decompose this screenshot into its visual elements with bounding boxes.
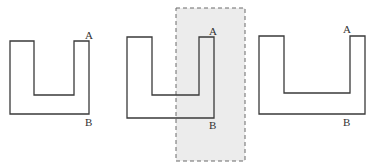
point-a-label: A [343,23,351,35]
u-shape-figure-1: A B [10,29,93,128]
u-shape-outline [10,41,89,114]
diagram-canvas: A B A B A B [0,0,376,166]
point-b-label: B [343,116,350,128]
point-b-label: B [209,119,216,131]
u-shape-outline [259,36,365,114]
point-a-label: A [209,25,217,37]
point-b-label: B [85,116,92,128]
u-shape-figure-3: A B [259,23,365,128]
point-a-label: A [85,29,93,41]
